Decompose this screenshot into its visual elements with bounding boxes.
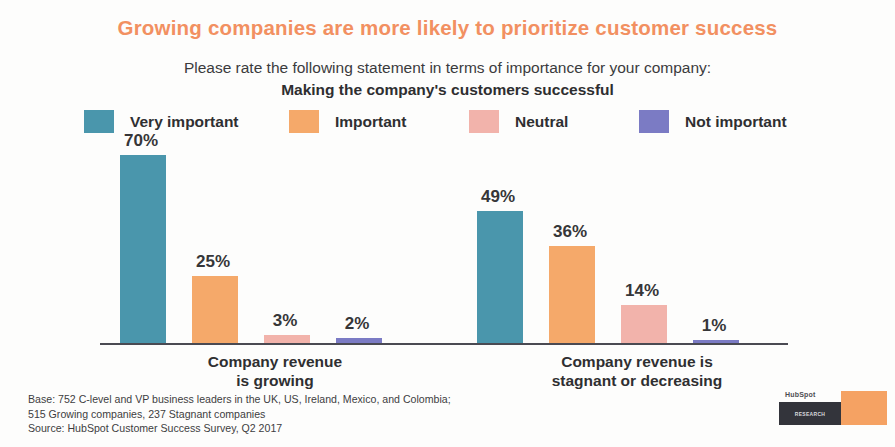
legend-swatch-neutral bbox=[469, 110, 499, 133]
legend-swatch-not-important bbox=[639, 110, 669, 133]
bar-value-label: 1% bbox=[682, 316, 746, 336]
legend-label-not-important: Not important bbox=[685, 113, 787, 131]
category-label-line-1: Company revenue bbox=[160, 352, 390, 371]
plot-area: 70% 25% 3% 2% 49% 36% bbox=[0, 150, 895, 346]
bar-very-important[interactable] bbox=[120, 155, 166, 343]
bar-value-label: 49% bbox=[466, 187, 530, 207]
subtitle-line-1: Please rate the following statement in t… bbox=[0, 58, 895, 78]
bar-value-label: 14% bbox=[610, 281, 674, 301]
bar-important[interactable] bbox=[549, 246, 595, 343]
bar-value-label: 2% bbox=[325, 314, 389, 334]
legend-item-not-important[interactable]: Not important bbox=[639, 110, 814, 133]
source-footnote: Base: 752 C-level and VP business leader… bbox=[28, 392, 451, 436]
logo-wordmark: HubSpot bbox=[785, 391, 816, 398]
chart-subtitle: Please rate the following statement in t… bbox=[0, 58, 895, 100]
bar-value-label: 3% bbox=[253, 311, 317, 331]
bar-neutral[interactable] bbox=[264, 335, 310, 343]
legend-swatch-important bbox=[289, 110, 319, 133]
category-label-line-2: stagnant or decreasing bbox=[512, 371, 762, 390]
logo-badge-text: RESEARCH bbox=[795, 411, 825, 417]
bar-value-label: 25% bbox=[181, 252, 245, 272]
bar-neutral[interactable] bbox=[621, 305, 667, 343]
category-label-line-2: is growing bbox=[160, 371, 390, 390]
legend-item-very-important[interactable]: Very important bbox=[84, 110, 289, 133]
hubspot-research-logo: HubSpot RESEARCH bbox=[779, 391, 887, 425]
footnote-line-3: Source: HubSpot Customer Success Survey,… bbox=[28, 421, 451, 436]
x-axis-line bbox=[100, 343, 788, 345]
chart-legend: Very important Important Neutral Not imp… bbox=[84, 110, 814, 133]
legend-label-neutral: Neutral bbox=[515, 113, 568, 131]
logo-orange-block bbox=[841, 391, 887, 425]
legend-label-important: Important bbox=[335, 113, 406, 131]
bar-value-label: 70% bbox=[109, 131, 173, 151]
legend-item-important[interactable]: Important bbox=[289, 110, 469, 133]
logo-badge-box: RESEARCH bbox=[779, 402, 841, 425]
bar-value-label: 36% bbox=[538, 222, 602, 242]
legend-label-very-important: Very important bbox=[130, 113, 239, 131]
subtitle-line-2: Making the company's customers successfu… bbox=[0, 79, 895, 100]
category-label-line-1: Company revenue is bbox=[512, 352, 762, 371]
category-label-stagnant: Company revenue is stagnant or decreasin… bbox=[512, 352, 762, 390]
footnote-line-2: 515 Growing companies, 237 Stagnant comp… bbox=[28, 407, 451, 422]
logo-left-block: HubSpot RESEARCH bbox=[779, 391, 841, 425]
category-label-growing: Company revenue is growing bbox=[160, 352, 390, 390]
footnote-line-1: Base: 752 C-level and VP business leader… bbox=[28, 392, 451, 407]
bar-very-important[interactable] bbox=[477, 211, 523, 343]
chart-figure: Growing companies are more likely to pri… bbox=[0, 0, 895, 447]
chart-title: Growing companies are more likely to pri… bbox=[0, 16, 895, 40]
legend-swatch-very-important bbox=[84, 110, 114, 133]
bar-important[interactable] bbox=[192, 276, 238, 343]
legend-item-neutral[interactable]: Neutral bbox=[469, 110, 639, 133]
